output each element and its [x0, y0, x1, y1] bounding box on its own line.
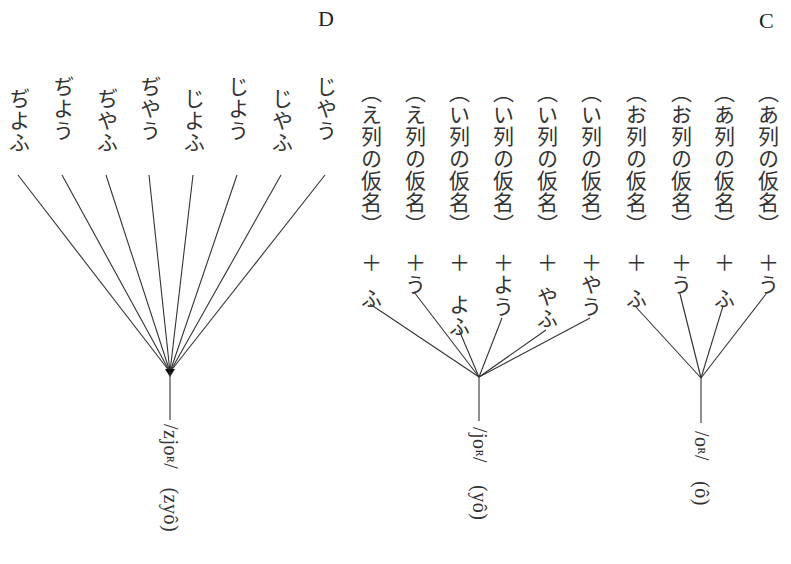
pattern-prefix: ︵え列の仮名︶	[358, 82, 382, 236]
kana-form: じよふ	[182, 88, 204, 154]
plus-sign: ＋	[756, 252, 778, 274]
kana-pattern: ︵お列の仮名︶＋う	[669, 82, 691, 296]
group-label-c: C	[759, 10, 774, 32]
kana-form: じよう	[226, 76, 248, 142]
pattern-prefix: ︵あ列の仮名︶	[711, 82, 735, 236]
pattern-suffix: ふ	[711, 288, 735, 310]
plus-sign: ＋	[579, 252, 601, 274]
kana-pattern: ︵い列の仮名︶＋やう	[579, 82, 601, 318]
pattern-suffix: う	[402, 274, 426, 296]
romaji-form: (ô)	[691, 481, 713, 506]
plus-sign: ＋	[624, 252, 646, 274]
fan-c	[635, 294, 766, 423]
pattern-prefix: ︵あ列の仮名︶	[755, 82, 779, 236]
kana-pattern: ︵あ列の仮名︶＋ふ	[712, 82, 734, 310]
kana-pattern: ︵お列の仮名︶＋ふ	[624, 82, 646, 310]
pattern-suffix: よふ	[446, 294, 470, 338]
result-label-b: /joʀ/(yô)	[468, 427, 491, 520]
group-label-d: D	[318, 8, 334, 30]
kana-pattern: ︵あ列の仮名︶＋う	[756, 82, 778, 296]
plus-sign: ＋	[669, 252, 691, 274]
pattern-prefix: ︵い列の仮名︶	[490, 82, 514, 236]
kana-pattern: ︵え列の仮名︶＋ふ	[359, 82, 381, 310]
pattern-suffix: やう	[578, 274, 602, 318]
kana-pattern: ︵い列の仮名︶＋よふ	[447, 82, 469, 338]
pattern-prefix: ︵お列の仮名︶	[623, 82, 647, 236]
plus-sign: ＋	[535, 252, 557, 274]
kana-form: ぢやう	[138, 76, 160, 142]
result-label-d: /zjoʀ/(zyô)	[159, 424, 182, 532]
plus-sign: ＋	[712, 252, 734, 274]
kana-form: じやふ	[270, 88, 292, 154]
kana-pattern: ︵え列の仮名︶＋う	[403, 82, 425, 296]
pattern-prefix: ︵お列の仮名︶	[668, 82, 692, 236]
pattern-suffix: ふ	[358, 288, 382, 310]
romaji-form: (yô)	[469, 485, 491, 520]
plus-sign: ＋	[447, 252, 469, 274]
pattern-suffix: よう	[490, 274, 514, 318]
kana-pattern: ︵い列の仮名︶＋よう	[491, 82, 513, 318]
kana-form: ぢやふ	[95, 88, 117, 154]
plus-sign: ＋	[359, 252, 381, 274]
pattern-prefix: ︵い列の仮名︶	[446, 82, 470, 236]
kana-form: ぢよう	[51, 76, 73, 142]
pattern-suffix: ふ	[623, 288, 647, 310]
kana-pattern: ︵い列の仮名︶＋やふ	[535, 82, 557, 330]
pattern-suffix: う	[668, 274, 692, 296]
pattern-prefix: ︵い列の仮名︶	[534, 82, 558, 236]
plus-sign: ＋	[491, 252, 513, 274]
pattern-prefix: ︵い列の仮名︶	[578, 82, 602, 236]
pattern-suffix: やふ	[534, 286, 558, 330]
kana-form: じやう	[314, 76, 336, 142]
pattern-suffix: う	[755, 274, 779, 296]
result-label-c: /oʀ/(ô)	[690, 431, 713, 506]
fan-d	[18, 175, 325, 420]
phonemic-form: /oʀ/	[691, 431, 713, 461]
phonemic-form: /joʀ/	[469, 427, 491, 463]
romaji-form: (zyô)	[160, 487, 182, 532]
plus-sign: ＋	[403, 252, 425, 274]
pattern-prefix: ︵え列の仮名︶	[402, 82, 426, 236]
kana-form: ぢよふ	[7, 88, 29, 154]
phonemic-form: /zjoʀ/	[160, 424, 182, 469]
